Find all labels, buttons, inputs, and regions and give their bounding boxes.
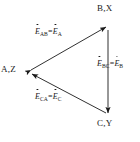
- edge-ca-subscript-2: C: [58, 96, 62, 102]
- edge-ca-subscript-1: CA: [40, 96, 48, 102]
- vertex-label-c: C,Y: [97, 118, 112, 128]
- triangle-flow-diagram: A,Z B,X C,Y EAB=EA EBC=EB ECA=EC: [0, 0, 140, 142]
- edge-label-ab: EAB=EA: [35, 27, 62, 36]
- edge-ca-symbol-2: E: [53, 92, 58, 101]
- edge-ab-subscript-1: AB: [40, 31, 48, 37]
- diagram-canvas: [0, 0, 140, 142]
- edge-ab-subscript-2: A: [58, 31, 62, 37]
- edge-ab-symbol-2: E: [53, 27, 58, 36]
- vertex-label-b: B,X: [97, 3, 112, 13]
- edge-label-bc: EBC=EB: [97, 59, 123, 68]
- vertex-label-a: A,Z: [1, 64, 16, 74]
- edge-bc-subscript-1: BC: [102, 63, 110, 69]
- edge-bc-subscript-2: B: [119, 63, 123, 69]
- edge-label-ca: ECA=EC: [35, 92, 62, 101]
